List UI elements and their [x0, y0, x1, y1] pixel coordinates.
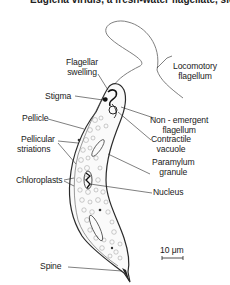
label-paramylum-granule: Paramylum granule	[152, 158, 195, 177]
label-contractile-vacuole: Contractile vacuole	[151, 135, 191, 154]
label-line: swelling	[66, 68, 98, 78]
label-line: striations	[17, 145, 55, 155]
label-stigma: Stigma	[45, 92, 71, 102]
label-pellicular-striations: Pellicular striations	[17, 135, 55, 154]
cell-body	[70, 84, 131, 282]
label-locomotory-flagellum: Locomotory flagellum	[173, 62, 217, 81]
label-nucleus: Nucleus	[153, 188, 183, 198]
label-line: flagellum	[173, 72, 217, 82]
label-chloroplasts: Chloroplasts	[16, 176, 63, 186]
label-non-emergent-flagellum: Non - emergent flagellum	[150, 116, 208, 135]
label-flagellar-swelling: Flagellar swelling	[66, 58, 98, 77]
label-spine: Spine	[40, 262, 61, 272]
label-line: vacuole	[151, 145, 191, 155]
label-pellicle: Pellicle	[22, 114, 48, 124]
scale-bar-label: 10 μm	[160, 246, 184, 256]
scale-bar-line	[162, 256, 183, 260]
label-line: granule	[152, 168, 195, 178]
